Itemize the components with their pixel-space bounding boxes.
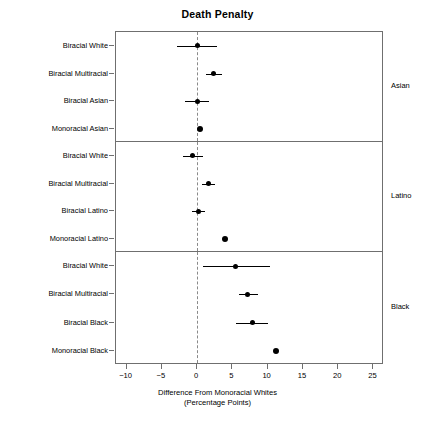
x-axis-tick [302,364,303,369]
y-axis-label: Biracial White [3,150,108,159]
point-estimate-marker [195,43,200,48]
x-axis-tick [231,364,232,369]
y-axis-label: Biracial Asian [3,96,108,105]
point-estimate-marker [273,348,279,354]
y-axis-tick [109,155,114,156]
x-axis-tick-label: −10 [119,371,132,380]
point-estimate-marker [196,209,201,214]
x-axis-tick-label: 20 [333,371,341,380]
point-estimate-marker [197,126,203,132]
x-axis-tick [337,364,338,369]
x-axis-tick [372,364,373,369]
y-axis-tick [109,100,114,101]
y-axis-label: Biracial Multiracial [3,178,108,187]
y-axis-label: Biracial White [3,40,108,49]
x-axis-tick-label: 0 [194,371,198,380]
strip-label-black: Black [391,302,409,311]
y-axis-label: Monoracial Asian [3,124,108,133]
point-estimate-marker [206,181,211,186]
forest-plot-figure: Death Penalty Biracial WhiteBiracial Mul… [0,0,435,430]
y-axis-label: Monoracial Black [3,345,108,354]
y-axis-tick [109,183,114,184]
y-axis-label: Monoracial Latino [3,234,108,243]
point-estimate-marker [245,292,250,297]
y-axis-label: Biracial Latino [3,206,108,215]
panel-latino [115,141,383,252]
y-axis-tick [109,322,114,323]
point-estimate-marker [190,153,195,158]
reference-line-zero [197,252,198,363]
y-axis-tick [109,293,114,294]
point-estimate-marker [222,236,228,242]
y-axis-tick [109,128,114,129]
x-axis-tick [126,364,127,369]
plot-area [115,31,383,364]
y-axis-tick [109,45,114,46]
reference-line-zero [197,32,198,141]
reference-line-zero [197,142,198,251]
point-estimate-marker [233,264,238,269]
x-axis-tick-label: 5 [229,371,233,380]
y-axis-tick [109,210,114,211]
x-axis-title-line1: Difference From Monoracial Whites [0,388,435,398]
y-axis-tick [109,265,114,266]
point-estimate-marker [250,320,255,325]
x-axis-tick-label: 25 [368,371,376,380]
panel-black [115,251,383,364]
x-axis-tick [196,364,197,369]
y-axis-tick [109,350,114,351]
y-axis-tick [109,73,114,74]
y-axis-labels: Biracial WhiteBiracial MultiracialBiraci… [0,0,108,430]
x-axis-tick-label: 15 [298,371,306,380]
point-estimate-marker [195,99,200,104]
x-axis-tick [267,364,268,369]
x-axis: −10−50510152025 [115,364,383,365]
x-axis-title: Difference From Monoracial Whites (Perce… [0,388,435,408]
y-axis-label: Biracial Multiracial [3,68,108,77]
x-axis-title-line2: (Percentage Points) [0,398,435,408]
x-axis-tick-label: 10 [262,371,270,380]
x-axis-tick-label: −5 [156,371,165,380]
y-axis-label: Biracial Black [3,317,108,326]
strip-label-latino: Latino [391,191,411,200]
point-estimate-marker [211,71,216,76]
x-axis-tick [161,364,162,369]
y-axis-tick [109,238,114,239]
strip-label-asian: Asian [391,81,410,90]
panel-asian [115,31,383,142]
y-axis-label: Biracial White [3,261,108,270]
y-axis-label: Biracial Multiracial [3,289,108,298]
